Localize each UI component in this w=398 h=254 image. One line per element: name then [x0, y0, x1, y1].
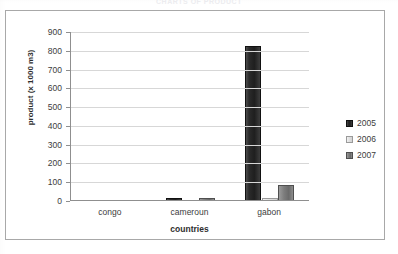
gridline: [71, 88, 309, 89]
y-axis-tick-labels: 0100200300400500600700800900: [6, 32, 70, 201]
bar-series-container: [71, 32, 309, 201]
legend-label: 2006: [357, 135, 376, 144]
y-axis-tick-label: 100: [48, 177, 62, 187]
x-axis-category-labels: congocameroungabon: [70, 207, 309, 221]
chart-frame: product (x 1000 m3) 01002003004005006007…: [5, 10, 385, 240]
bar-group: [86, 32, 135, 201]
y-axis-tick-label: 400: [48, 121, 62, 131]
legend-swatch-icon: [346, 152, 353, 159]
top-caption: CHARTS OF PRODUCT: [0, 0, 398, 5]
y-axis-tick-label: 300: [48, 140, 62, 150]
bar-gabon-2007: [278, 185, 294, 201]
y-axis-tick-mark: [66, 201, 70, 202]
gridline: [71, 70, 309, 71]
x-axis-label-congo: congo: [70, 207, 150, 217]
legend-item-2007[interactable]: 2007: [346, 151, 392, 160]
legend-label: 2005: [357, 119, 376, 128]
chart-legend: 200520062007: [346, 119, 392, 167]
y-axis-tick-label: 500: [48, 102, 62, 112]
legend-swatch-icon: [346, 120, 353, 127]
plot-area: [70, 32, 309, 201]
gridline: [71, 126, 309, 127]
y-axis-tick-label: 900: [48, 27, 62, 37]
x-axis-label-gabon: gabon: [229, 207, 309, 217]
chart-screenshot: CHARTS OF PRODUCT product (x 1000 m3) 01…: [0, 0, 398, 254]
legend-item-2005[interactable]: 2005: [346, 119, 392, 128]
x-axis-line: [71, 200, 309, 201]
gridline: [71, 182, 309, 183]
gridline: [71, 32, 309, 33]
x-axis-label-cameroun: cameroun: [150, 207, 230, 217]
y-axis-tick-label: 0: [57, 196, 62, 206]
y-axis-tick-label: 800: [48, 46, 62, 56]
bar-group: [245, 32, 294, 201]
x-axis-title: countries: [70, 224, 309, 234]
gridline: [71, 163, 309, 164]
legend-label: 2007: [357, 151, 376, 160]
bar-group: [166, 32, 215, 201]
legend-item-2006[interactable]: 2006: [346, 135, 392, 144]
legend-swatch-icon: [346, 136, 353, 143]
y-axis-tick-label: 700: [48, 65, 62, 75]
gridline: [71, 145, 309, 146]
gridline: [71, 51, 309, 52]
gridline: [71, 107, 309, 108]
y-axis-tick-label: 200: [48, 158, 62, 168]
y-axis-tick-label: 600: [48, 83, 62, 93]
